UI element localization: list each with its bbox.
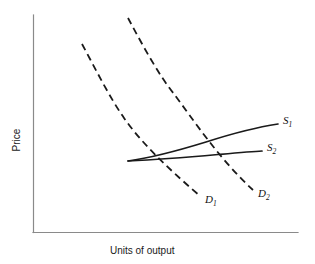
curve-label-d2: D2 <box>257 187 270 202</box>
curve-label-d1-sub: 1 <box>213 199 217 208</box>
curve-label-d1-base: D <box>204 193 213 205</box>
curve-label-s2-sub: 2 <box>273 147 277 156</box>
chart-canvas: S1 S2 D1 D2 Units of output Price <box>0 0 315 264</box>
curve-label-s1-sub: 1 <box>289 120 293 129</box>
curve-label-d1: D1 <box>204 193 217 208</box>
demand-curve-d1 <box>82 44 200 196</box>
demand-curve-d2 <box>128 18 253 190</box>
curve-label-d2-base: D <box>257 187 266 199</box>
supply-curve-s2 <box>128 151 262 161</box>
curve-label-s2: S2 <box>267 141 277 156</box>
curve-label-d2-sub: 2 <box>266 193 270 202</box>
y-axis-title: Price <box>11 128 22 151</box>
supply-demand-chart: S1 S2 D1 D2 Units of output Price <box>0 0 315 264</box>
curve-label-s1: S1 <box>283 114 292 129</box>
x-axis-title: Units of output <box>110 245 175 256</box>
